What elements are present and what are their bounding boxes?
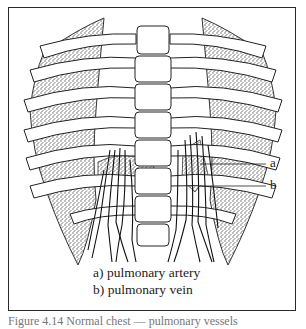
right-lung bbox=[202, 18, 276, 265]
legend-key: a) bbox=[93, 265, 104, 280]
legend-text: pulmonary vein bbox=[108, 282, 193, 297]
label-a: a bbox=[270, 155, 276, 171]
legend: a) pulmonary artery b) pulmonary vein bbox=[93, 264, 200, 298]
figure-caption: Figure 4.14 Normal chest — pulmonary ves… bbox=[8, 314, 238, 329]
legend-item-artery: a) pulmonary artery bbox=[93, 264, 200, 281]
legend-text: pulmonary artery bbox=[107, 265, 200, 280]
label-b: b bbox=[270, 177, 277, 193]
legend-item-vein: b) pulmonary vein bbox=[93, 281, 200, 298]
spine bbox=[135, 26, 171, 246]
legend-key: b) bbox=[93, 282, 104, 297]
